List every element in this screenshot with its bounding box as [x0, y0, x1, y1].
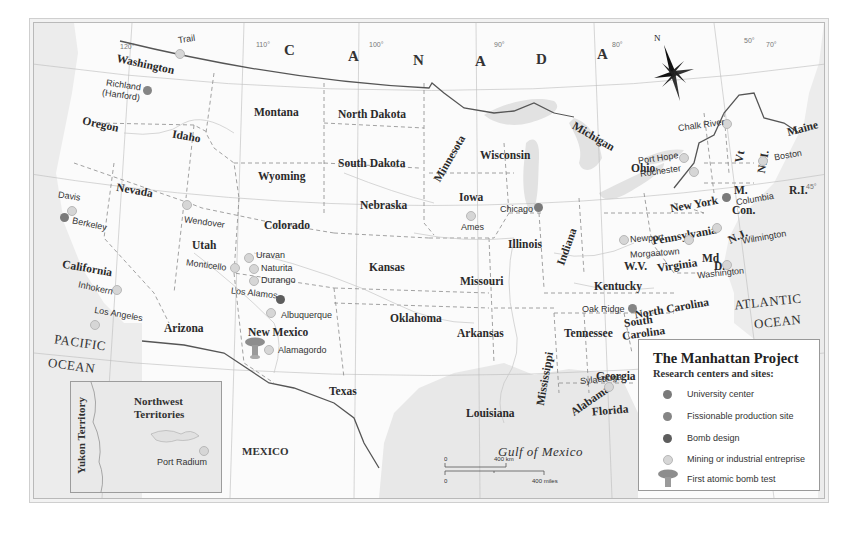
legend-item-mining: Mining or industrial entreprise	[639, 451, 819, 467]
legend-subtitle: Research centers and sites:	[653, 368, 774, 379]
site-label-port-radium: Port Radium	[157, 458, 207, 467]
degree-80: 80°	[612, 41, 623, 48]
svg-text:0: 0	[444, 478, 448, 484]
site-marker-wilmington[interactable]	[712, 223, 722, 233]
mining-site-icon	[663, 455, 673, 465]
site-marker-columbia[interactable]	[722, 193, 731, 202]
scale-bar: 0 400 km 0 400 miles	[444, 453, 564, 493]
canada-letter-a3: A	[597, 47, 608, 62]
state-nebraska: Nebraska	[360, 200, 407, 212]
site-label-oak-ridge: Oak Ridge	[582, 305, 625, 314]
state-kansas: Kansas	[369, 262, 405, 274]
state-connecticut: Con.	[732, 205, 755, 217]
state-tennessee: Tennessee	[564, 328, 613, 340]
legend-label: Fissionable production site	[687, 411, 794, 421]
legend-item-bomb-design: Bomb design	[639, 430, 819, 446]
legend-item-atomic-test: First atomic bomb test	[639, 471, 819, 487]
state-wyoming: Wyoming	[258, 171, 306, 183]
inset-label-northwest: Northwest	[134, 396, 183, 407]
site-marker-newport[interactable]	[619, 235, 629, 245]
inset-label-territories: Territories	[134, 409, 184, 420]
state-west-virginia: W.V.	[624, 261, 647, 273]
site-marker-ames[interactable]	[466, 211, 476, 221]
state-wisconsin: Wisconsin	[480, 150, 530, 162]
site-marker-albuquerque[interactable]	[266, 308, 276, 318]
inset-label-yukon: Yukon Territory	[76, 397, 87, 474]
legend-label: Mining or industrial entreprise	[687, 454, 805, 464]
site-label-albuquerque: Albuquerque	[281, 311, 332, 320]
legend-label: University center	[687, 389, 754, 399]
canada-letter-a2: A	[475, 54, 486, 69]
site-marker-wendover[interactable]	[182, 200, 192, 210]
state-iowa: Iowa	[459, 192, 483, 204]
legend-label: First atomic bomb test	[687, 474, 776, 484]
site-marker-monticello[interactable]	[230, 263, 240, 273]
site-marker-boston[interactable]	[758, 156, 768, 166]
compass-rose-icon: N	[648, 31, 698, 121]
compass-north-label: N	[654, 33, 661, 43]
site-marker-berkeley[interactable]	[60, 213, 69, 222]
svg-text:400 miles: 400 miles	[532, 478, 558, 484]
legend-label: Bomb design	[687, 433, 740, 443]
site-marker-durango[interactable]	[249, 276, 259, 286]
legend-item-university: University center	[639, 386, 819, 402]
site-marker-oak-ridge[interactable]	[628, 304, 637, 313]
map-frame: 120° 110° 100° 90° 80° 70° 50° 45° 30° C…	[33, 22, 825, 499]
site-marker-morgaatown[interactable]	[684, 235, 694, 245]
state-arizona: Arizona	[164, 323, 204, 335]
site-label-durango: Durango	[261, 276, 296, 285]
degree-70: 70°	[766, 41, 777, 48]
site-label-uravan: Uravan	[256, 251, 285, 260]
canada-letter-a1: A	[348, 49, 359, 64]
site-marker-chicago[interactable]	[534, 203, 543, 212]
state-arkansas: Arkansas	[457, 328, 504, 340]
site-marker-rochester[interactable]	[689, 167, 699, 177]
degree-90: 90°	[494, 41, 505, 48]
site-marker-port-hope[interactable]	[679, 153, 689, 163]
canada-letter-c: C	[284, 43, 295, 58]
site-marker-naturita[interactable]	[249, 264, 259, 274]
degree-110: 110°	[256, 41, 270, 48]
site-label-naturita: Naturita	[261, 264, 293, 273]
site-marker-uravan[interactable]	[244, 253, 254, 263]
atomic-test-icon	[657, 469, 679, 489]
degree-50: 50°	[744, 37, 755, 44]
degree-100: 100°	[369, 41, 383, 48]
legend-item-fissionable: Fissionable production site	[639, 408, 819, 424]
canada-letter-d: D	[536, 52, 547, 67]
state-colorado: Colorado	[264, 220, 310, 232]
state-louisiana: Louisiana	[466, 408, 515, 420]
legend-title: The Manhattan Project	[653, 350, 799, 367]
degree-120: 120°	[120, 43, 134, 50]
state-utah: Utah	[192, 240, 216, 252]
state-illinois: Illinois	[508, 239, 542, 251]
state-vermont: Vt	[733, 150, 746, 164]
atomic-test-icon-trinity	[244, 337, 266, 359]
canada-letter-n: N	[413, 53, 424, 68]
state-north-dakota: North Dakota	[338, 109, 406, 121]
site-marker-richland[interactable]	[143, 86, 152, 95]
legend-box: The Manhattan Project Research centers a…	[638, 339, 820, 491]
bomb-design-icon	[663, 434, 672, 443]
state-texas: Texas	[329, 386, 357, 398]
state-rhode-island: R.I.	[789, 185, 808, 197]
state-oklahoma: Oklahoma	[390, 313, 442, 325]
svg-text:0: 0	[444, 456, 448, 462]
svg-text:400 km: 400 km	[494, 456, 514, 462]
site-marker-los-angeles[interactable]	[90, 320, 100, 330]
state-montana: Montana	[254, 107, 299, 119]
mexico-label: MEXICO	[242, 446, 288, 457]
state-south-dakota: South Dakota	[338, 158, 405, 170]
state-missouri: Missouri	[460, 276, 503, 288]
site-marker-trail[interactable]	[175, 49, 185, 59]
state-kentucky: Kentucky	[594, 281, 642, 293]
site-label-ames: Ames	[461, 223, 484, 232]
university-center-icon	[663, 390, 672, 399]
fissionable-site-icon	[663, 412, 672, 421]
site-label-chicago: Chicago	[500, 205, 533, 214]
inset-map-northwest-territories: Northwest Territories Yukon Territory Po…	[70, 381, 222, 493]
site-marker-port-radium[interactable]	[199, 446, 209, 456]
site-label-alamagordo: Alamagordo	[278, 346, 327, 355]
